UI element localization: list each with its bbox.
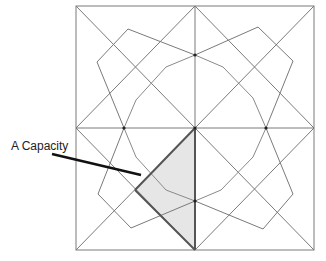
capacity-label: A Capacity (11, 139, 68, 153)
capacity-diagram (0, 0, 326, 261)
callout-pointer (52, 154, 141, 175)
